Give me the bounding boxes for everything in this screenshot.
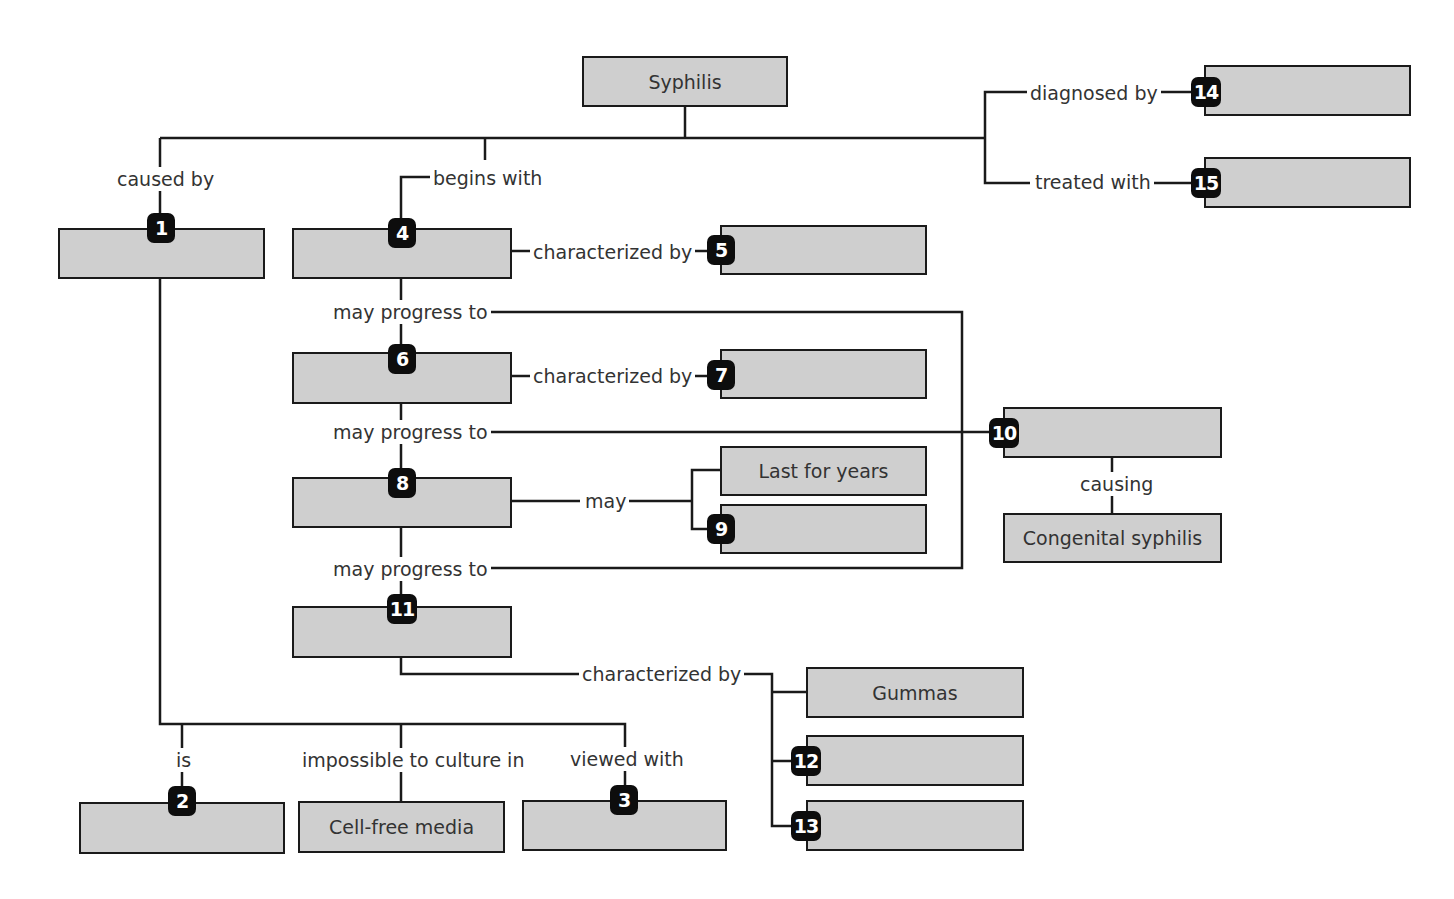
node-label: Congenital syphilis — [1023, 527, 1202, 549]
link-viewed-with: viewed with — [567, 747, 687, 771]
link-is: is — [173, 748, 194, 772]
badge-14: 14 — [1191, 77, 1221, 107]
node-last-for-years: Last for years — [720, 446, 927, 496]
node-congenital-syphilis: Congenital syphilis — [1003, 513, 1222, 563]
node-gummas: Gummas — [806, 667, 1024, 718]
badge-3: 3 — [610, 785, 638, 815]
badge-6: 6 — [388, 344, 416, 374]
node-syphilis: Syphilis — [582, 56, 788, 107]
link-impossible-to-culture-in: impossible to culture in — [299, 748, 527, 772]
node-5[interactable] — [720, 225, 927, 275]
node-13[interactable] — [806, 800, 1024, 851]
node-label: Gummas — [872, 682, 957, 704]
node-12[interactable] — [806, 735, 1024, 786]
node-10[interactable] — [1003, 407, 1222, 458]
badge-15: 15 — [1191, 168, 1221, 198]
link-characterized-by-11: characterized by — [579, 662, 744, 686]
link-begins-with: begins with — [430, 166, 545, 190]
link-may-progress-to-1: may progress to — [330, 300, 491, 324]
node-cell-free-media: Cell-free media — [298, 801, 505, 853]
link-causing: causing — [1077, 472, 1156, 496]
concept-map: Syphilis Last for years Congenital syphi… — [0, 0, 1454, 899]
link-may-progress-to-2: may progress to — [330, 420, 491, 444]
node-9[interactable] — [720, 504, 927, 554]
badge-7: 7 — [707, 360, 735, 390]
link-diagnosed-by: diagnosed by — [1027, 81, 1161, 105]
badge-5: 5 — [707, 235, 735, 265]
badge-10: 10 — [989, 418, 1019, 448]
link-may: may — [582, 489, 629, 513]
badge-9: 9 — [707, 514, 735, 544]
badge-11: 11 — [387, 594, 417, 624]
link-characterized-by-5: characterized by — [530, 240, 695, 264]
node-14[interactable] — [1204, 65, 1411, 116]
badge-13: 13 — [791, 811, 821, 841]
badge-4: 4 — [388, 218, 416, 248]
node-label: Last for years — [758, 460, 888, 482]
link-characterized-by-7: characterized by — [530, 364, 695, 388]
badge-1: 1 — [147, 213, 175, 243]
link-may-progress-to-3: may progress to — [330, 557, 491, 581]
link-caused-by: caused by — [114, 167, 217, 191]
badge-8: 8 — [388, 468, 416, 498]
badge-12: 12 — [791, 746, 821, 776]
badge-2: 2 — [168, 786, 196, 816]
node-7[interactable] — [720, 349, 927, 399]
node-label: Cell-free media — [329, 816, 474, 838]
node-label: Syphilis — [648, 71, 721, 93]
link-treated-with: treated with — [1032, 170, 1154, 194]
node-15[interactable] — [1204, 157, 1411, 208]
